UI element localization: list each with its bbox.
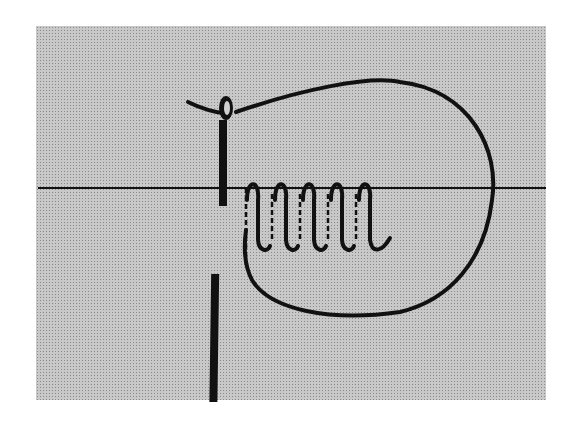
needle-icon [209,96,233,402]
bullion-stitch-diagram [0,0,580,431]
coil-wraps [247,184,390,250]
